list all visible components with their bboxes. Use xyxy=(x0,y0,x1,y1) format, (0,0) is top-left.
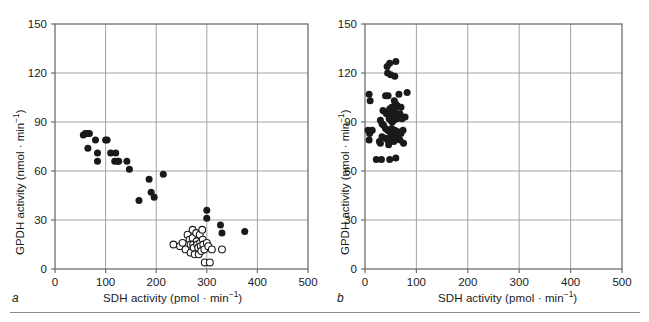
data-point-filled xyxy=(86,130,93,137)
data-point-filled xyxy=(160,171,167,178)
data-point-filled xyxy=(386,156,393,163)
data-point-filled xyxy=(135,197,142,204)
data-point-filled xyxy=(112,150,119,157)
x-tick-label: 400 xyxy=(561,276,580,288)
y-axis-label-b: GPDH activity (nmol · min−1) xyxy=(339,109,351,255)
x-axis-label-b: SDH activity (pmol · min−1) xyxy=(438,292,577,304)
data-point-open xyxy=(206,259,213,266)
data-point-filled xyxy=(366,91,373,98)
panel-letter-a: a xyxy=(12,291,19,305)
data-point-filled xyxy=(115,158,122,165)
x-tick-label: 100 xyxy=(407,276,426,288)
data-point-filled xyxy=(94,158,101,165)
data-point-filled xyxy=(377,140,384,147)
y-tick-label: 150 xyxy=(338,18,357,30)
data-point-filled xyxy=(402,114,409,121)
data-point-filled xyxy=(386,60,393,67)
figure-container: 03060901201500100200300400500 GPDH activ… xyxy=(0,0,649,322)
y-tick-label: 120 xyxy=(338,67,357,79)
y-tick-label: 0 xyxy=(351,263,357,275)
data-point-filled xyxy=(217,221,224,228)
plot-frame xyxy=(55,24,308,269)
data-point-filled xyxy=(400,140,407,147)
data-point-filled xyxy=(104,136,111,143)
data-point-filled xyxy=(400,127,407,134)
data-point-filled xyxy=(378,156,385,163)
data-point-open xyxy=(179,239,186,246)
data-point-filled xyxy=(395,91,402,98)
data-point-open xyxy=(219,246,226,253)
data-point-filled xyxy=(84,145,91,152)
data-point-filled xyxy=(385,92,392,99)
y-tick-label: 90 xyxy=(34,116,47,128)
data-point-filled xyxy=(241,228,248,235)
x-tick-label: 300 xyxy=(510,276,529,288)
data-point-filled xyxy=(392,154,399,161)
panel-letter-b: b xyxy=(337,291,344,305)
data-point-filled xyxy=(92,136,99,143)
data-point-filled xyxy=(366,136,373,143)
data-point-filled xyxy=(404,89,411,96)
scatter-plot-b: 03060901201500100200300400500 xyxy=(325,0,649,290)
data-point-filled xyxy=(367,97,374,104)
x-tick-label: 100 xyxy=(96,276,115,288)
x-tick-label: 200 xyxy=(458,276,477,288)
y-tick-label: 150 xyxy=(28,18,47,30)
y-tick-label: 60 xyxy=(34,165,47,177)
x-tick-label: 0 xyxy=(362,276,368,288)
scatter-plot-a: 03060901201500100200300400500 xyxy=(0,0,325,290)
x-tick-label: 0 xyxy=(52,276,58,288)
data-point-open xyxy=(208,246,215,253)
x-tick-label: 200 xyxy=(147,276,166,288)
data-point-filled xyxy=(94,150,101,157)
x-tick-label: 400 xyxy=(248,276,267,288)
chart-panel-b: 03060901201500100200300400500 GPDH activ… xyxy=(325,0,649,322)
data-point-filled xyxy=(369,127,376,134)
x-tick-label: 500 xyxy=(612,276,631,288)
x-axis-label-a: SDH activity (pmol · min−1) xyxy=(103,292,242,304)
data-point-filled xyxy=(203,215,210,222)
data-point-filled xyxy=(151,194,158,201)
data-point-filled xyxy=(126,166,133,173)
y-tick-label: 0 xyxy=(41,263,47,275)
data-point-filled xyxy=(123,158,130,165)
data-point-open xyxy=(199,226,206,233)
data-point-filled xyxy=(397,104,404,111)
data-point-filled xyxy=(391,73,398,80)
data-point-open xyxy=(170,241,177,248)
y-tick-label: 30 xyxy=(34,214,47,226)
footer-divider xyxy=(10,312,640,313)
chart-panel-a: 03060901201500100200300400500 GPDH activ… xyxy=(0,0,325,322)
data-point-filled xyxy=(203,207,210,214)
y-tick-label: 120 xyxy=(28,67,47,79)
y-axis-label-a: GPDH activity (nmol · min−1) xyxy=(14,109,26,255)
data-point-filled xyxy=(146,176,153,183)
x-tick-label: 300 xyxy=(197,276,216,288)
x-tick-label: 500 xyxy=(298,276,317,288)
data-point-filled xyxy=(385,141,392,148)
data-point-filled xyxy=(392,58,399,65)
data-point-filled xyxy=(218,230,225,237)
